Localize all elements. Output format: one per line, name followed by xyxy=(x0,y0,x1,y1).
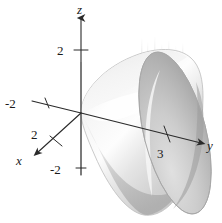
paraboloid-figure: z 2 -2 y 3 -2 x 2 xyxy=(0,0,222,223)
paraboloid-surface xyxy=(81,45,222,221)
x-tick-label-2: 2 xyxy=(31,127,38,142)
paraboloid-diagram-svg: z 2 -2 y 3 -2 x 2 xyxy=(0,0,222,223)
z-tick-label-2: 2 xyxy=(57,43,64,58)
y-tick-label-3: 3 xyxy=(157,146,164,161)
y-axis-label: y xyxy=(205,138,213,153)
x-axis-line xyxy=(37,113,81,153)
x-axis-label: x xyxy=(15,153,22,168)
z-axis-label: z xyxy=(76,2,82,17)
y-axis-negative-line xyxy=(32,101,81,113)
x-axis-tick-2 xyxy=(50,136,62,146)
y-tick-label-neg2: -2 xyxy=(5,96,16,111)
y-axis-tick-neg2 xyxy=(45,98,49,108)
z-tick-label-neg2: -2 xyxy=(50,162,61,177)
